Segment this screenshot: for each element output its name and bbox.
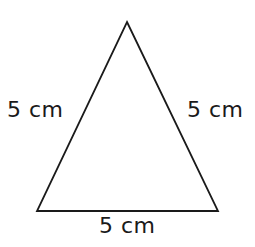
triangle-diagram: 5 cm 5 cm 5 cm — [0, 0, 255, 247]
left-side-length-label: 5 cm — [7, 99, 64, 121]
triangle-shape — [0, 0, 255, 247]
bottom-side-length-label: 5 cm — [99, 215, 156, 237]
right-side-length-label: 5 cm — [187, 99, 244, 121]
